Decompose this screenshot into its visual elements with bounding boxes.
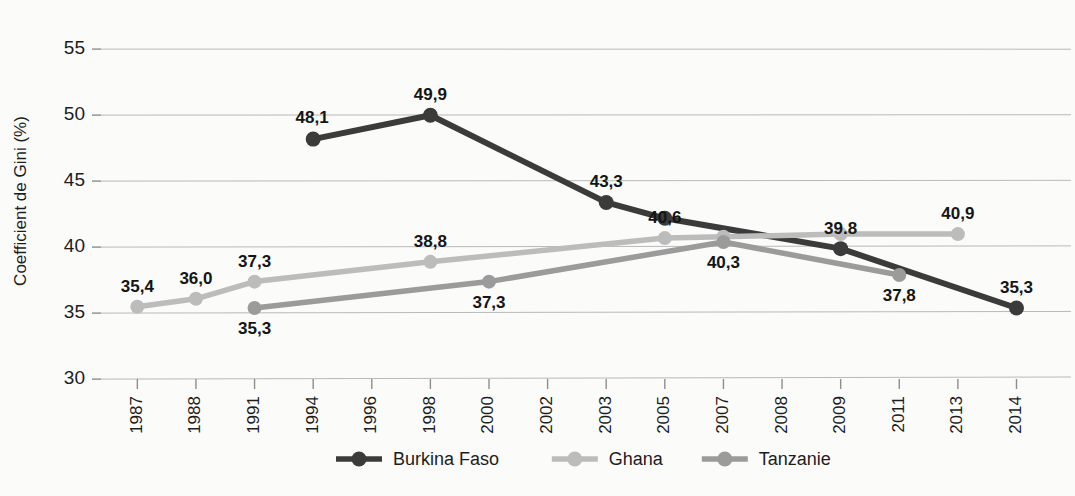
series-lines-group [137,115,1016,308]
data-point-marker [189,292,203,306]
y-tick-label-55: 55 [64,37,85,58]
x-axis-ticks-group: 1987198819911994199619982000200220032005… [127,379,1025,434]
data-point-marker [716,235,730,249]
legend-label-burkina-faso[interactable]: Burkina Faso [393,449,499,469]
data-point-marker [130,300,144,314]
legend-label-tanzanie[interactable]: Tanzanie [759,449,831,469]
y-axis-ticks-group: 303540455055 [64,37,101,388]
data-label: 35,3 [238,319,271,338]
y-axis-title-group: Coefficient de Gini (%) [11,116,30,286]
x-tick-label-1994: 1994 [303,396,322,434]
data-point-marker [892,268,906,282]
data-point-marker [658,231,672,245]
x-tick-label-1988: 1988 [185,396,204,434]
x-tick-label-2008: 2008 [772,396,791,434]
x-tick-label-2003: 2003 [596,396,615,434]
y-tick-label-30: 30 [64,367,85,388]
y-tick-label-40: 40 [64,235,85,256]
page-bleed-strip [0,487,1075,496]
x-tick-label-1996: 1996 [361,396,380,434]
data-label: 36,0 [179,269,212,288]
x-tick-label-2007: 2007 [713,396,732,434]
chart-canvas: 303540455055 198719881991199419961998200… [0,0,1075,496]
data-point-marker [482,275,496,289]
legend: Burkina FasoGhanaTanzanie [336,449,831,469]
data-label: 35,4 [121,277,155,296]
data-label: 40,9 [941,204,974,223]
data-label: 49,9 [414,85,447,104]
x-tick-label-2005: 2005 [654,396,673,434]
data-labels-group: 48,149,943,339.835,335,436,037,338,840,6… [121,85,1033,338]
data-point-marker [248,275,262,289]
series-line-tanzanie [255,242,900,308]
data-point-marker [1009,301,1024,316]
x-tick-label-2013: 2013 [947,396,966,434]
data-label: 48,1 [296,108,329,127]
x-tick-label-1998: 1998 [420,396,439,434]
gridline-35 [101,311,1071,313]
data-label: 40,3 [707,253,740,272]
data-label: 37,8 [883,286,916,305]
y-tick-label-45: 45 [64,169,85,190]
data-point-marker [306,132,321,147]
gini-coefficient-line-chart: 303540455055 198719881991199419961998200… [0,0,1075,496]
x-tick-label-2011: 2011 [889,396,908,433]
x-tick-label-2009: 2009 [830,396,849,434]
data-label: 39.8 [824,219,857,238]
series-markers-group [130,108,1024,316]
legend-swatch-marker-burkina-faso [352,452,367,467]
y-tick-label-35: 35 [64,301,85,322]
data-label: 40,6 [648,208,681,227]
x-tick-label-2002: 2002 [537,396,556,434]
bleed-text [296,487,300,492]
y-axis-title: Coefficient de Gini (%) [11,116,30,286]
x-tick-label-2014: 2014 [1006,396,1025,434]
data-label: 37,3 [472,293,505,312]
data-point-marker [599,195,614,210]
x-tick-label-2000: 2000 [478,396,497,434]
data-point-marker [423,108,438,123]
data-point-marker [951,227,965,241]
gridline-45 [101,180,1071,181]
y-tick-label-50: 50 [64,103,85,124]
data-label: 38,8 [414,232,447,251]
data-point-marker [248,301,262,315]
x-tick-label-1987: 1987 [127,396,146,434]
data-label: 35,3 [1000,278,1033,297]
data-point-marker [423,255,437,269]
data-label: 43,3 [590,172,623,191]
data-label: 37,3 [238,252,271,271]
legend-label-ghana[interactable]: Ghana [609,449,664,469]
x-tick-label-1991: 1991 [244,396,263,434]
legend-swatch-marker-ghana [567,452,582,467]
data-point-marker [833,241,848,256]
gridline-30 [101,377,1071,379]
legend-swatch-marker-tanzanie [717,452,732,467]
